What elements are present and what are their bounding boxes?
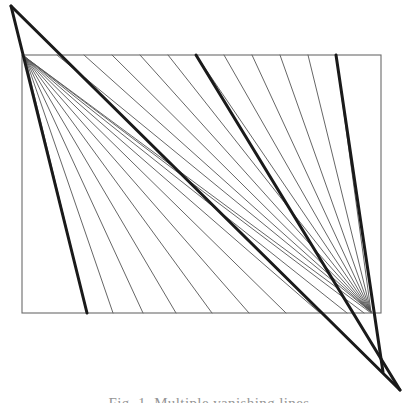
figure-container: Fig. 1. Multiple vanishing lines [0,0,418,403]
line-figure-svg [0,0,418,403]
figure-caption: Fig. 1. Multiple vanishing lines [0,395,418,403]
